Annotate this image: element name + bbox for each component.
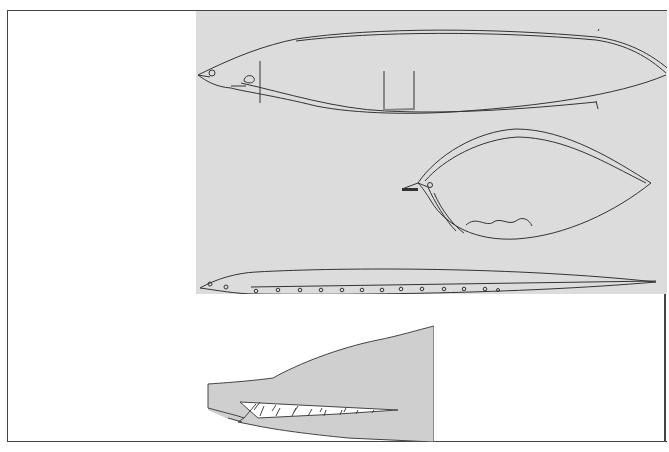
larvae-panel: [196, 11, 667, 294]
larvae-illustration: [196, 11, 667, 294]
fig5-head-detail: [198, 318, 434, 442]
fig1-anguilla-larva-icon: [198, 29, 667, 113]
fig3-cyema-larva-icon: [402, 129, 651, 239]
fig4-nettostomatid-larva-icon: [200, 269, 656, 294]
nettostomatid-head-icon: [198, 318, 434, 442]
figure-caption: [17, 186, 189, 271]
